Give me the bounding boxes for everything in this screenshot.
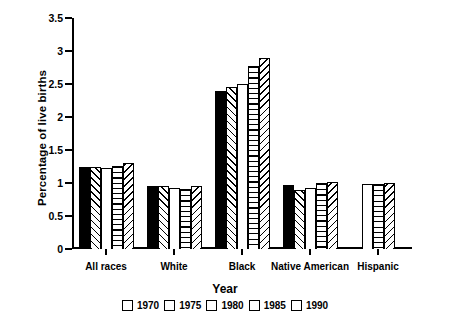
y-tick: [65, 215, 72, 216]
x-tick-label-hispanic: Hispanic: [357, 261, 399, 272]
x-tick: [173, 249, 174, 255]
y-tick: [65, 116, 72, 117]
bar-1985: [373, 184, 384, 249]
x-tick: [377, 249, 378, 255]
bar-1970: [283, 185, 294, 249]
legend-swatch-1970: [122, 300, 133, 311]
legend-item-1975: 1975: [164, 300, 201, 311]
y-tick: [65, 17, 72, 18]
legend-swatch-1985: [249, 300, 260, 311]
y-axis-title: Percentage of live births: [36, 38, 48, 238]
bar-group-black: [215, 58, 270, 249]
legend-label-1975: 1975: [179, 300, 201, 311]
bar-group-native-american: [283, 182, 338, 249]
bar-1985: [112, 166, 123, 249]
y-tick: [65, 182, 72, 183]
x-tick: [309, 249, 310, 255]
x-tick: [241, 249, 242, 255]
bar-1985: [248, 66, 259, 249]
y-tick-label: 0.5: [48, 210, 63, 222]
legend-label-1980: 1980: [221, 300, 243, 311]
bar-1975: [158, 186, 169, 249]
y-tick: [65, 83, 72, 84]
bar-1980: [305, 188, 316, 249]
chart-legend: 19701975198019851990: [0, 300, 450, 311]
y-tick-label: 2: [57, 111, 63, 123]
bar-1990: [123, 163, 134, 249]
bar-1975: [294, 190, 305, 249]
bar-1980: [101, 168, 112, 249]
bar-1985: [180, 189, 191, 249]
y-tick-label: 1: [57, 177, 63, 189]
x-tick: [105, 249, 106, 255]
bar-1975: [90, 167, 101, 249]
legend-item-1985: 1985: [249, 300, 286, 311]
bar-1980: [237, 84, 248, 249]
bar-group-hispanic: [362, 183, 395, 249]
bar-1990: [384, 183, 395, 249]
y-axis-line: [72, 18, 74, 249]
x-axis-title: Year: [0, 282, 450, 296]
x-tick-label-all-races: All races: [85, 261, 127, 272]
y-tick-label: 1.5: [48, 144, 63, 156]
legend-item-1970: 1970: [122, 300, 159, 311]
bar-1970: [147, 186, 158, 249]
bar-1980: [169, 188, 180, 249]
bar-1990: [191, 186, 202, 249]
bar-1970: [215, 91, 226, 249]
y-tick: [65, 149, 72, 150]
y-tick-label: 0: [57, 243, 63, 255]
legend-swatch-1980: [206, 300, 217, 311]
bar-group-all-races: [79, 163, 134, 249]
legend-label-1970: 1970: [137, 300, 159, 311]
y-tick-label: 3: [57, 45, 63, 57]
x-tick-label-native-american: Native American: [271, 261, 349, 272]
legend-item-1980: 1980: [206, 300, 243, 311]
plot-area: 00.511.522.533.5 All racesWhiteBlackNati…: [72, 18, 412, 249]
y-tick-label: 2.5: [48, 78, 63, 90]
legend-swatch-1990: [291, 300, 302, 311]
legend-swatch-1975: [164, 300, 175, 311]
legend-item-1990: 1990: [291, 300, 328, 311]
y-tick-label: 3.5: [48, 12, 63, 24]
x-tick-label-black: Black: [229, 261, 256, 272]
y-tick: [65, 248, 72, 249]
bar-1980: [362, 184, 373, 249]
bar-1975: [226, 87, 237, 249]
bar-1985: [316, 183, 327, 249]
legend-label-1990: 1990: [306, 300, 328, 311]
x-tick-label-white: White: [160, 261, 187, 272]
y-tick: [65, 50, 72, 51]
legend-label-1985: 1985: [264, 300, 286, 311]
bar-1990: [259, 58, 270, 249]
bar-1970: [79, 167, 90, 250]
bar-1990: [327, 182, 338, 249]
bar-group-white: [147, 186, 202, 249]
bar-chart: Percentage of live births 00.511.522.533…: [0, 0, 450, 326]
